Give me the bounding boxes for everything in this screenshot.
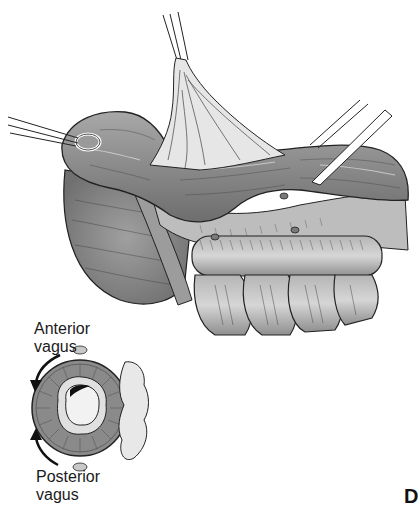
posterior-label-line2: vagus [36, 486, 100, 504]
posterior-label-line1: Posterior [36, 468, 100, 486]
cross-section-inset [30, 346, 149, 471]
panel-letter: D [404, 485, 418, 506]
omentum-lump [119, 362, 149, 460]
anterior-label-line2: vagus [34, 338, 90, 356]
small-bowel-loops [192, 236, 382, 335]
nerve-fan [150, 58, 285, 170]
anterior-vagus-label: Anterior vagus [34, 320, 90, 356]
posterior-vagus-label: Posterior vagus [36, 468, 100, 504]
anterior-label-line1: Anterior [34, 320, 90, 338]
retractor-top [163, 12, 188, 60]
